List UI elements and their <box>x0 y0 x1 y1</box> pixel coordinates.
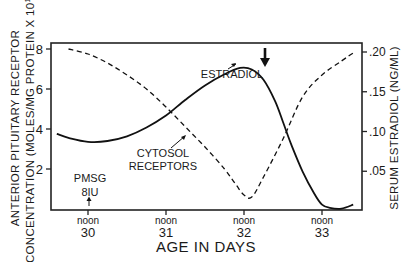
estradiol-line <box>57 68 353 209</box>
y-tick-label: 6 <box>36 82 43 97</box>
y2-tick-label: .20 <box>369 45 386 59</box>
y-tick-label: 4 <box>36 122 43 137</box>
down-arrow-icon <box>260 58 270 67</box>
y2-tick-label: .15 <box>369 85 386 99</box>
cytosol-label-line1: CYTOSOL <box>137 147 189 159</box>
y-tick-label: 2 <box>36 162 43 177</box>
estradiol-label: ESTRADIOL <box>201 68 263 80</box>
chart-canvas: 2468.05.10.15.20noon30noon31noon32noon33… <box>0 0 409 262</box>
y2-tick-label: .05 <box>369 164 386 178</box>
cytosol-label-line2: RECEPTORS <box>129 160 197 172</box>
pmsg-label: PMSG <box>74 172 106 184</box>
y-tick-label: 8 <box>36 42 43 57</box>
plot-area: 2468.05.10.15.20noon30noon31noon32noon33… <box>36 42 386 240</box>
x-axis-title: AGE IN DAYS <box>156 238 256 255</box>
x-tick-label-bottom: 33 <box>315 225 329 240</box>
y2-axis-title: SERUM ESTRADIOL (NG/ML) <box>388 46 400 210</box>
pmsg-dose-label: 8IU <box>81 186 98 198</box>
x-tick-label-bottom: 30 <box>81 225 95 240</box>
y-axis-title-line1: ANTERIOR PITUITARY RECEPTOR <box>9 30 21 226</box>
y-axis-title-line2: CONCENTRATION (MOLES/MG PROTEIN X 1014) <box>23 0 37 262</box>
y2-tick-label: .10 <box>369 125 386 139</box>
